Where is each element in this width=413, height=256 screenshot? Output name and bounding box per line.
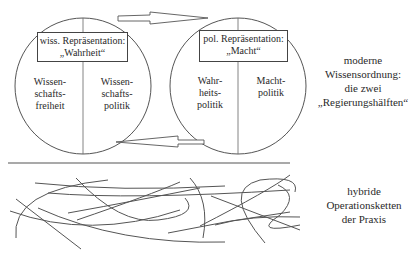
left-box-line1: wiss. Repräsentation:: [38, 35, 127, 47]
right-circle-right-half: Macht- politik: [251, 75, 291, 99]
left-circle-left-half: Wissen- schafts- freiheit: [28, 76, 72, 112]
scribble-lines: [10, 175, 300, 249]
arrow-right-icon: [118, 12, 208, 24]
hybrid-operation-chains-label: hybride Operationsketten der Praxis: [320, 184, 408, 226]
modern-knowledge-order-label: moderne Wissensordnung: die zwei „Regier…: [315, 53, 411, 109]
right-circle-left-half: Wahr- heits- politik: [190, 75, 230, 111]
right-box-line2: „Macht“: [200, 45, 287, 57]
right-box-line1: pol. Repräsentation:: [200, 33, 287, 45]
left-box-line2: „Wahrheit“: [38, 47, 127, 59]
right-representation-box: pol. Repräsentation: „Macht“: [199, 30, 288, 62]
arrow-left-icon: [116, 136, 204, 147]
left-representation-box: wiss. Repräsentation: „Wahrheit“: [37, 32, 128, 62]
left-circle-right-half: Wissen- schafts- politik: [97, 76, 137, 112]
